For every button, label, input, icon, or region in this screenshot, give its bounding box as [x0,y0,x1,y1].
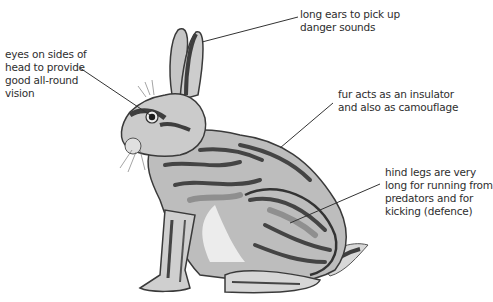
nose [125,138,141,154]
eyes-leader [80,68,150,115]
ears-leader [202,17,298,42]
label-fur: fur acts as an insulator and also as cam… [338,88,458,114]
front-legs [140,210,195,291]
label-ears: long ears to pick up danger sounds [300,8,400,34]
label-eyes: eyes on sides of head to provide good al… [5,48,87,100]
fur-leader [280,103,333,148]
label-legs: hind legs are very long for running from… [385,166,493,218]
